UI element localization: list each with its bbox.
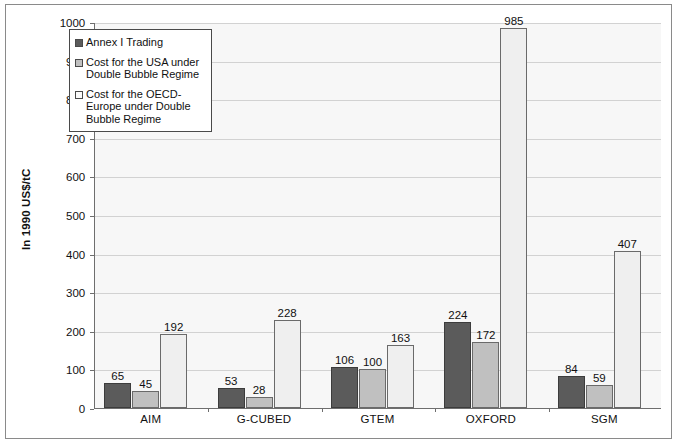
x-axis-category-label: SGM bbox=[548, 413, 661, 425]
y-axis-tick-label: 500 bbox=[39, 210, 85, 222]
gridline bbox=[95, 23, 661, 24]
bar-value-label: 100 bbox=[363, 356, 382, 368]
bar: 172 bbox=[472, 342, 499, 408]
bar: 163 bbox=[387, 345, 414, 408]
bar-value-label: 228 bbox=[278, 307, 297, 319]
x-axis-tick-mark bbox=[322, 408, 323, 412]
bar-value-label: 224 bbox=[448, 309, 467, 321]
bar-value-label: 53 bbox=[225, 375, 238, 387]
bar-value-label: 985 bbox=[504, 15, 523, 27]
gridline bbox=[95, 177, 661, 178]
legend-item-label: Cost for the OECD-Europe under Double Bu… bbox=[86, 88, 206, 126]
y-axis-tick-mark bbox=[90, 177, 94, 178]
gridline bbox=[95, 216, 661, 217]
bar-value-label: 65 bbox=[111, 370, 124, 382]
bar: 407 bbox=[614, 251, 641, 408]
bar: 106 bbox=[331, 367, 358, 408]
chart-page: In 1990 US$/tC 6545192532822810610016322… bbox=[0, 0, 677, 444]
x-axis-category-label: GTEM bbox=[321, 413, 434, 425]
bar: 228 bbox=[274, 320, 301, 408]
y-axis-tick-label: 100 bbox=[39, 364, 85, 376]
legend-item-annex-i-trading: Annex I Trading bbox=[75, 36, 206, 49]
legend-item-oecd-europe-double-bubble: Cost for the OECD-Europe under Double Bu… bbox=[75, 88, 206, 126]
y-axis-tick-label: 300 bbox=[39, 287, 85, 299]
y-axis-tick-mark bbox=[90, 216, 94, 217]
x-axis-category-label: G-CUBED bbox=[207, 413, 320, 425]
y-axis-tick-mark bbox=[90, 409, 94, 410]
y-axis-tick-mark bbox=[90, 370, 94, 371]
y-axis-tick-mark bbox=[90, 139, 94, 140]
bar-value-label: 192 bbox=[164, 321, 183, 333]
chart-legend: Annex I Trading Cost for the USA under D… bbox=[69, 29, 212, 132]
y-axis-tick-label: 0 bbox=[39, 403, 85, 415]
bar-value-label: 59 bbox=[593, 372, 606, 384]
x-axis-tick-mark bbox=[435, 408, 436, 412]
y-axis-tick-label: 400 bbox=[39, 249, 85, 261]
dark-gray-swatch-icon bbox=[75, 39, 83, 47]
medium-gray-swatch-icon bbox=[75, 59, 83, 67]
y-axis-tick-mark bbox=[90, 23, 94, 24]
bar: 53 bbox=[218, 388, 245, 408]
y-axis-title: In 1990 US$/tC bbox=[20, 144, 36, 274]
light-gray-swatch-icon bbox=[75, 91, 83, 99]
bar-value-label: 84 bbox=[565, 363, 578, 375]
bar: 65 bbox=[104, 383, 131, 408]
gridline bbox=[95, 255, 661, 256]
bar: 985 bbox=[500, 28, 527, 408]
y-axis-tick-mark bbox=[90, 332, 94, 333]
gridline bbox=[95, 293, 661, 294]
x-axis-tick-mark bbox=[549, 408, 550, 412]
x-axis-category-label: OXFORD bbox=[434, 413, 547, 425]
gridline bbox=[95, 139, 661, 140]
legend-item-label: Annex I Trading bbox=[86, 36, 163, 49]
bar: 59 bbox=[586, 385, 613, 408]
legend-item-label: Cost for the USA under Double Bubble Reg… bbox=[86, 56, 206, 81]
figure-frame: In 1990 US$/tC 6545192532822810610016322… bbox=[5, 4, 672, 439]
y-axis-tick-label: 700 bbox=[39, 133, 85, 145]
bar: 45 bbox=[132, 391, 159, 408]
bar-value-label: 172 bbox=[476, 329, 495, 341]
bar-value-label: 28 bbox=[253, 384, 266, 396]
bar: 224 bbox=[444, 322, 471, 408]
y-axis-tick-label: 200 bbox=[39, 326, 85, 338]
x-axis-tick-mark bbox=[208, 408, 209, 412]
x-axis-category-label: AIM bbox=[94, 413, 207, 425]
y-axis-tick-mark bbox=[90, 293, 94, 294]
bar-value-label: 163 bbox=[391, 332, 410, 344]
bar: 28 bbox=[246, 397, 273, 408]
bar: 84 bbox=[558, 376, 585, 408]
bar-value-label: 106 bbox=[335, 354, 354, 366]
bar-value-label: 45 bbox=[139, 378, 152, 390]
bar: 192 bbox=[160, 334, 187, 408]
y-axis-tick-mark bbox=[90, 255, 94, 256]
y-axis-tick-label: 1000 bbox=[39, 17, 85, 29]
bar-value-label: 407 bbox=[618, 238, 637, 250]
bar: 100 bbox=[359, 369, 386, 408]
legend-item-usa-double-bubble: Cost for the USA under Double Bubble Reg… bbox=[75, 56, 206, 81]
y-axis-tick-label: 600 bbox=[39, 171, 85, 183]
